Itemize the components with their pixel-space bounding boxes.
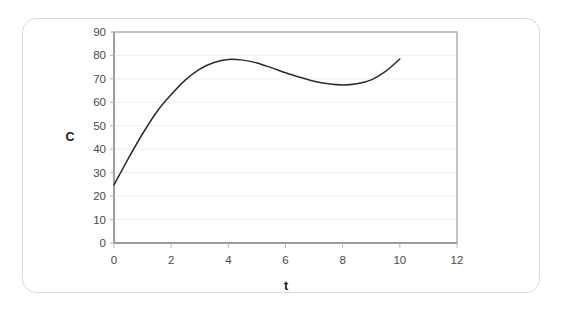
chart-svg: 0102030405060708090 024681012 C t (0, 0, 562, 312)
x-axis-title: t (284, 279, 289, 293)
y-tick-label: 50 (93, 120, 106, 132)
y-tick-label: 80 (93, 49, 106, 61)
plot-area-border (114, 32, 457, 243)
y-tick-label: 70 (93, 73, 106, 85)
x-tick-label: 6 (282, 254, 288, 266)
x-tick-labels-group: 024681012 (111, 254, 464, 266)
x-tick-label: 12 (451, 254, 464, 266)
y-tick-label: 40 (93, 143, 106, 155)
x-tick-label: 2 (168, 254, 174, 266)
x-tick-label: 10 (393, 254, 406, 266)
x-tick-label: 0 (111, 254, 117, 266)
y-tick-labels-group: 0102030405060708090 (93, 26, 106, 249)
y-tick-label: 0 (100, 237, 106, 249)
y-tick-label: 20 (93, 190, 106, 202)
x-tick-label: 4 (225, 254, 232, 266)
gridlines-group (114, 55, 457, 219)
line-chart-figure: 0102030405060708090 024681012 C t (0, 0, 562, 312)
y-axis-title: C (65, 130, 74, 144)
y-tick-label: 10 (93, 214, 106, 226)
y-tick-label: 90 (93, 26, 106, 38)
x-tick-label: 8 (339, 254, 345, 266)
data-series-curve (114, 59, 400, 185)
y-tick-label: 30 (93, 167, 106, 179)
y-tick-label: 60 (93, 96, 106, 108)
x-tick-marks-group (114, 243, 457, 248)
